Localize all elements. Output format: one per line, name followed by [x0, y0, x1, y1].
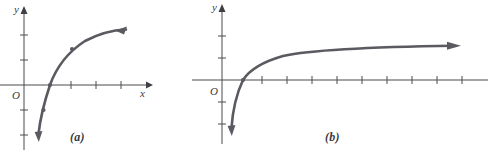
panel-a-curve-end-arrow [115, 27, 127, 35]
panel-a-curve-group [35, 27, 127, 143]
panel-b-log-curve [232, 46, 455, 128]
panel-b-y-axis-label: y [211, 1, 217, 13]
panel-a-x-axis-label: x [139, 87, 145, 99]
panel-a-y-axis-label: y [13, 3, 19, 15]
panel-a-log-curve [39, 30, 127, 135]
panel-b-curve-point-intercept [241, 78, 245, 82]
figure-container: y x O [0, 0, 488, 156]
panel-a-curve-point-upper [70, 47, 74, 51]
panel-a-curve-start-arrow [35, 131, 43, 142]
panel-b-curve-group [228, 42, 461, 136]
panel-a-y-axis-arrow [21, 6, 28, 14]
panel-b-origin-label: O [210, 85, 218, 97]
panel-a-axes [0, 6, 153, 150]
panel-a-x-axis-arrow [146, 82, 153, 89]
panel-b-axes [192, 4, 488, 144]
panel-b-curve-end-arrow [447, 42, 461, 50]
panel-b-caption: (b) [325, 130, 340, 145]
panel-b-y-axis-arrow [219, 4, 226, 12]
panel-a-curve-point-lower [41, 108, 45, 112]
panel-a-curve-point-intercept [48, 83, 52, 87]
panel-b-curve-start-arrow [228, 125, 236, 136]
panel-a-caption: (a) [70, 130, 85, 145]
panel-a-origin-label: O [12, 89, 20, 101]
